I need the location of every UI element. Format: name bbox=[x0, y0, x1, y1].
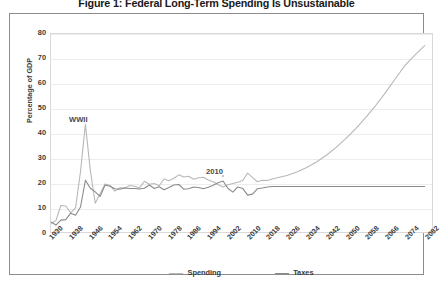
y-tick-label: 0 bbox=[14, 229, 46, 237]
series-svg bbox=[51, 34, 432, 232]
annotation-2010: 2010 bbox=[206, 167, 223, 176]
legend-item-taxes[interactable]: Taxes bbox=[275, 269, 313, 277]
legend-line-icon-taxes bbox=[275, 273, 289, 274]
plot-area bbox=[50, 33, 433, 233]
y-tick-label: 20 bbox=[14, 179, 46, 187]
chart-legend: Spending Taxes bbox=[50, 266, 433, 280]
y-axis-labels: 01020304050607080 bbox=[10, 14, 50, 254]
y-tick-label: 60 bbox=[14, 79, 46, 87]
chart-frame: Percentage of GDP 01020304050607080 WWII… bbox=[9, 13, 424, 275]
y-tick-label: 80 bbox=[14, 29, 46, 37]
legend-label-spending: Spending bbox=[187, 269, 221, 277]
legend-line-icon-spending bbox=[169, 273, 183, 274]
series-line-spending bbox=[51, 46, 425, 224]
y-tick-label: 10 bbox=[14, 204, 46, 212]
scan-speck bbox=[222, 175, 224, 177]
page-title: Figure 1: Federal Long-Term Spending Is … bbox=[15, 0, 418, 9]
legend-item-spending[interactable]: Spending bbox=[169, 269, 221, 277]
x-axis-labels: 1930193819461954196219701978198619942002… bbox=[50, 235, 433, 265]
annotation-wwii: WWII bbox=[69, 115, 88, 124]
series-line-taxes bbox=[51, 180, 425, 225]
legend-label-taxes: Taxes bbox=[293, 269, 313, 277]
y-tick-label: 30 bbox=[14, 154, 46, 162]
y-tick-label: 50 bbox=[14, 104, 46, 112]
y-tick-label: 70 bbox=[14, 54, 46, 62]
y-tick-label: 40 bbox=[14, 129, 46, 137]
